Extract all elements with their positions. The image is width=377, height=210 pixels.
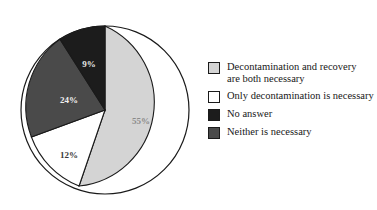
legend-item-label: No answer	[227, 108, 272, 120]
legend-item-label: Neither is necessary	[227, 126, 312, 138]
legend-item-neither-is-necessary[interactable]: Neither is necessary	[208, 126, 374, 139]
legend-swatch-icon	[208, 109, 220, 121]
legend-item-decontamination-and-recovery[interactable]: Decontamination and recovery are both ne…	[208, 61, 374, 84]
pie-label-24: 24%	[60, 95, 78, 105]
legend-item-label: Decontamination and recovery are both ne…	[227, 61, 356, 84]
pie-chart-figure: 55% 12% 24% 9% Decontamination and recov…	[0, 0, 377, 210]
legend: Decontamination and recovery are both ne…	[208, 61, 374, 144]
pie-label-9: 9%	[82, 59, 96, 69]
pie-label-12: 12%	[60, 150, 78, 160]
legend-swatch-icon	[208, 62, 220, 74]
legend-swatch-icon	[208, 91, 220, 103]
pie-label-55: 55%	[132, 116, 150, 126]
legend-item-no-answer[interactable]: No answer	[208, 108, 374, 121]
pie-chart-svg: 55% 12% 24% 9%	[19, 24, 191, 196]
legend-item-only-decontamination[interactable]: Only decontamination is necessary	[208, 90, 374, 103]
legend-swatch-icon	[208, 127, 220, 139]
legend-item-label: Only decontamination is necessary	[227, 90, 374, 102]
pie-chart: 55% 12% 24% 9%	[19, 24, 191, 196]
